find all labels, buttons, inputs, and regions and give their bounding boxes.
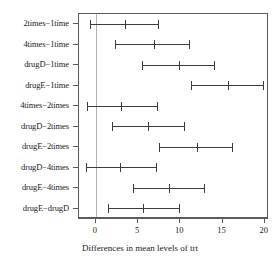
interval-center-mark — [197, 143, 198, 152]
y-axis-tick — [73, 44, 78, 45]
y-axis-tick — [73, 85, 78, 86]
interval-upper-cap — [158, 20, 159, 29]
confidence-interval-row — [79, 203, 267, 214]
interval-line — [115, 44, 188, 45]
confidence-interval-row — [79, 80, 267, 91]
y-axis-tick — [73, 64, 78, 65]
x-axis-tick-label: 5 — [135, 225, 139, 235]
y-axis-label: drugD−2times — [21, 121, 69, 130]
interval-center-mark — [143, 204, 144, 213]
confidence-interval-row — [79, 39, 267, 50]
x-axis-tick-label: 20 — [260, 225, 269, 235]
confidence-interval-row — [79, 142, 267, 153]
plot-frame — [78, 13, 268, 218]
interval-center-mark — [148, 122, 149, 131]
y-axis-label: drugE−1time — [25, 80, 69, 89]
interval-lower-cap — [133, 184, 134, 193]
interval-upper-cap — [157, 102, 158, 111]
interval-lower-cap — [191, 81, 192, 90]
plot-area — [79, 14, 267, 217]
y-axis-tick — [73, 187, 78, 188]
interval-lower-cap — [142, 61, 143, 70]
interval-lower-cap — [90, 20, 91, 29]
tukey-hsd-interval-plot: 2times−1time4times−1timedrugD−1timedrugE… — [0, 0, 280, 270]
interval-upper-cap — [214, 61, 215, 70]
y-axis-label: drugD−4times — [21, 162, 69, 171]
y-axis-tick — [73, 23, 78, 24]
y-axis-label: drugE−drugD — [23, 203, 69, 212]
y-axis-tick — [73, 105, 78, 106]
interval-lower-cap — [86, 163, 87, 172]
x-axis-line — [78, 218, 268, 219]
interval-line — [159, 147, 232, 148]
interval-center-mark — [154, 40, 155, 49]
interval-center-mark — [121, 102, 122, 111]
interval-upper-cap — [189, 40, 190, 49]
confidence-interval-row — [79, 121, 267, 132]
x-axis-tick — [222, 218, 223, 223]
confidence-interval-row — [79, 19, 267, 30]
y-axis-tick — [73, 126, 78, 127]
x-axis-tick-label: 0 — [93, 225, 97, 235]
y-axis-label: drugD−1time — [24, 60, 69, 69]
y-axis-tick — [73, 208, 78, 209]
interval-center-mark — [228, 81, 229, 90]
interval-lower-cap — [87, 102, 88, 111]
confidence-interval-row — [79, 183, 267, 194]
y-axis-tick — [73, 146, 78, 147]
interval-center-mark — [179, 61, 180, 70]
interval-center-mark — [120, 163, 121, 172]
interval-lower-cap — [159, 143, 160, 152]
interval-upper-cap — [204, 184, 205, 193]
x-axis-tick — [179, 218, 180, 223]
interval-center-mark — [169, 184, 170, 193]
y-axis-label: 4times−1time — [23, 39, 69, 48]
x-axis-tick-label: 15 — [217, 225, 226, 235]
interval-lower-cap — [112, 122, 113, 131]
x-axis-tick — [264, 218, 265, 223]
interval-lower-cap — [115, 40, 116, 49]
y-axis-tick — [73, 167, 78, 168]
confidence-interval-row — [79, 101, 267, 112]
x-axis-title: Differences in mean levels of trt — [0, 243, 280, 254]
interval-upper-cap — [179, 204, 180, 213]
y-axis-label: drugE−4times — [22, 183, 69, 192]
y-axis-label: 4times−2times — [20, 101, 69, 110]
x-axis-tick — [137, 218, 138, 223]
interval-upper-cap — [232, 143, 233, 152]
confidence-interval-row — [79, 60, 267, 71]
interval-center-mark — [125, 20, 126, 29]
y-axis-label: drugE−2times — [22, 142, 69, 151]
interval-upper-cap — [263, 81, 264, 90]
interval-upper-cap — [184, 122, 185, 131]
y-axis-label: 2times−1time — [23, 19, 69, 28]
interval-upper-cap — [156, 163, 157, 172]
x-axis-tick-label: 10 — [175, 225, 184, 235]
confidence-interval-row — [79, 162, 267, 173]
interval-lower-cap — [108, 204, 109, 213]
x-axis-tick — [95, 218, 96, 223]
